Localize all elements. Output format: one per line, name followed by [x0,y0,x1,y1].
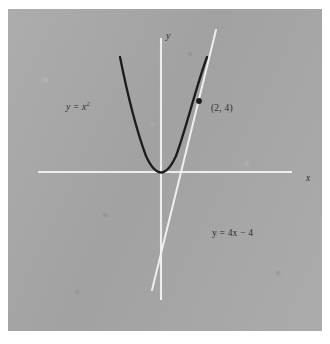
label-parabola-exponent: 2 [86,100,89,107]
graph-canvas [8,9,322,331]
figure-root: y=x2 y = 4x − 4 (2, 4) x y [0,0,330,344]
photo-plate: y=x2 y = 4x − 4 (2, 4) x y [8,9,322,331]
label-parabola-lhs: y [66,102,70,112]
x-axis-label: x [306,173,310,183]
y-axis-label: y [166,31,170,41]
tangency-point-marker [196,98,202,104]
label-parabola-equals: = [73,102,79,112]
label-tangency-point: (2, 4) [211,103,233,113]
label-parabola-equation: y=x2 [66,100,90,112]
label-tangent-equation: y = 4x − 4 [212,228,253,238]
parabola-curve [120,57,207,173]
